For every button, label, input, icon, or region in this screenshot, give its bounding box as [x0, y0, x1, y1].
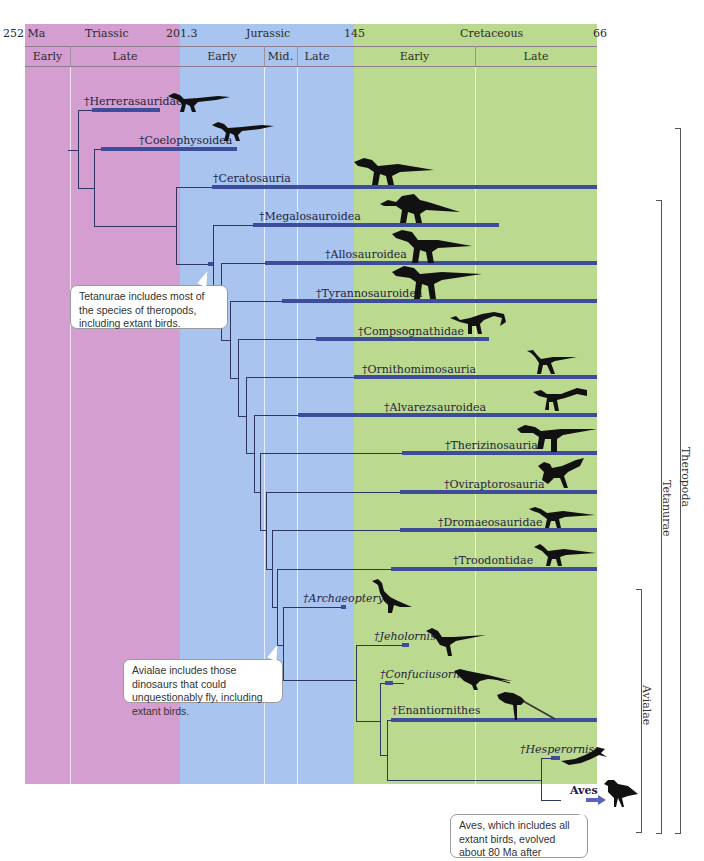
branch — [221, 340, 230, 341]
branch — [78, 110, 92, 111]
branch — [213, 225, 253, 226]
oviraptorosaur-silhouette-icon — [538, 458, 586, 494]
range-troodontidae — [391, 567, 597, 571]
avialae-callout: Avialae includes those dinosaurs that co… — [123, 659, 283, 703]
branch — [238, 416, 246, 417]
taxon-alvarezsauroidea: †Alvarezsauroidea — [384, 401, 486, 414]
branch — [78, 110, 79, 188]
troodontid-silhouette-icon — [534, 543, 596, 567]
epoch-jurassic-early: Early — [180, 50, 264, 63]
boundary-252: 252 Ma — [3, 27, 45, 40]
range-jeholornis — [402, 643, 409, 647]
branch — [277, 569, 391, 570]
branch — [266, 492, 267, 569]
epoch-divider — [70, 66, 71, 784]
branch — [260, 453, 402, 454]
branch — [380, 683, 381, 755]
branch — [283, 607, 343, 608]
taxon-dromaeosauridae: †Dromaeosauridae — [438, 516, 543, 529]
aves-silhouette-icon — [604, 778, 638, 808]
aves-callout: Aves, which includes all extant birds, e… — [450, 814, 588, 858]
herrerasaurid-silhouette-icon — [168, 92, 230, 114]
epoch-triassic-early: Early — [25, 50, 70, 63]
epoch-cretaceous-late: Late — [475, 50, 597, 63]
branch — [272, 530, 273, 607]
branch — [176, 187, 212, 188]
branch — [260, 453, 261, 530]
taxon-aves: Aves — [570, 784, 598, 797]
period-cretaceous: Cretaceous — [460, 27, 523, 40]
epoch-triassic-late: Late — [70, 50, 180, 63]
theropoda-label: Theropoda — [679, 447, 692, 507]
ceratosaur-silhouette-icon — [354, 156, 434, 186]
jeholornis-silhouette-icon — [426, 627, 486, 657]
compsognathid-silhouette-icon — [450, 310, 508, 336]
branch — [230, 301, 282, 302]
branch — [238, 339, 239, 416]
branch — [221, 263, 265, 264]
branch — [356, 645, 357, 721]
branch — [266, 492, 400, 493]
enantiornithine-silhouette-icon — [497, 691, 557, 721]
therizinosaur-silhouette-icon — [517, 423, 597, 453]
range-archaeopteryx — [341, 605, 346, 609]
taxon-compsognathidae: †Compsognathidae — [358, 325, 464, 338]
dromaeosaur-silhouette-icon — [529, 505, 595, 529]
epoch-cretaceous-early: Early — [354, 50, 475, 63]
boundary-145: 145 — [344, 27, 365, 40]
taxon-enantiornithes: †Enantiornithes — [392, 704, 480, 717]
branch — [277, 569, 278, 645]
alvarezsaur-silhouette-icon — [533, 386, 589, 412]
tetanurae-callout: Tetanurae includes most of the species o… — [70, 285, 228, 329]
branch — [380, 755, 387, 756]
taxon-ornithomimosauria: †Ornithomimosauria — [362, 363, 476, 376]
taxon-megalosauroidea: †Megalosauroidea — [259, 210, 361, 223]
epoch-jurassic-late: Late — [297, 50, 337, 63]
branch — [356, 645, 402, 646]
branch — [254, 415, 298, 416]
epoch-divider — [297, 66, 298, 784]
branch — [541, 758, 542, 800]
range-enantiornithes — [391, 718, 597, 722]
boundary-201: 201.3 — [166, 27, 198, 40]
epoch-jurassic-mid: Mid. — [264, 50, 297, 63]
branch — [94, 226, 176, 227]
range-tetanurae-stem — [208, 262, 213, 266]
branch — [387, 720, 388, 780]
taxon-ceratosauria: †Ceratosauria — [213, 172, 291, 185]
branch — [246, 377, 354, 378]
branch — [283, 680, 356, 681]
period-triassic: Triassic — [85, 27, 129, 40]
tetanurae-label: Tetanurae — [660, 480, 673, 536]
branch — [230, 378, 238, 379]
branch — [238, 339, 316, 340]
branch — [541, 800, 561, 801]
allosaur-silhouette-icon — [392, 228, 472, 264]
taxon-troodontidae: †Troodontidae — [453, 554, 533, 567]
confuciusornis-silhouette-icon — [454, 667, 512, 691]
branch — [246, 377, 247, 453]
branch — [94, 149, 95, 226]
avialae-label: Avialae — [640, 685, 653, 725]
branch — [387, 780, 541, 781]
taxon-oviraptorosauria: †Oviraptorosauria — [444, 478, 545, 491]
branch — [254, 415, 255, 492]
period-jurassic: Jurassic — [246, 27, 290, 40]
range-herrerasauridae — [92, 108, 160, 112]
tyrannosaur-silhouette-icon — [392, 264, 482, 300]
branch — [230, 301, 231, 378]
branch — [283, 607, 284, 680]
hesperornis-silhouette-icon — [561, 747, 607, 767]
spinosaur-silhouette-icon — [380, 192, 460, 224]
branch — [68, 150, 78, 151]
range-confuciusornis — [385, 681, 393, 685]
branch — [94, 149, 101, 150]
ornithomimid-silhouette-icon — [527, 349, 577, 375]
branch — [272, 530, 400, 531]
branch — [78, 188, 94, 189]
branch — [176, 187, 177, 264]
branch — [246, 453, 254, 454]
boundary-66: 66 — [593, 27, 607, 40]
range-coelophysoidea — [101, 147, 237, 151]
range-hesperornis — [551, 756, 560, 760]
